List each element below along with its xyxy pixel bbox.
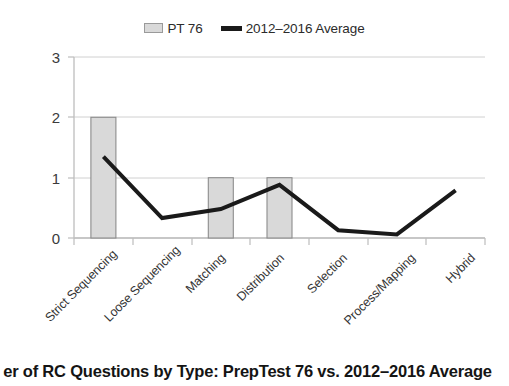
ytick-label-3: 3 (38, 49, 60, 66)
y-axis-ticks (68, 57, 74, 238)
ytick-label-2: 2 (38, 109, 60, 126)
chart-caption-text: er of RC Questions by Type: PrepTest 76 … (3, 362, 492, 381)
plot-area: 0 1 2 3 Strict Sequencing Loose Sequenci… (0, 0, 509, 386)
chart-caption: er of RC Questions by Type: PrepTest 76 … (0, 362, 509, 381)
ytick-label-0: 0 (38, 230, 60, 247)
plot-canvas (0, 0, 509, 386)
ytick-label-1: 1 (38, 170, 60, 187)
bar-strict-sequencing (91, 117, 116, 238)
chart-figure: PT 76 2012–2016 Average (0, 0, 509, 386)
x-axis-ticks (74, 238, 485, 245)
